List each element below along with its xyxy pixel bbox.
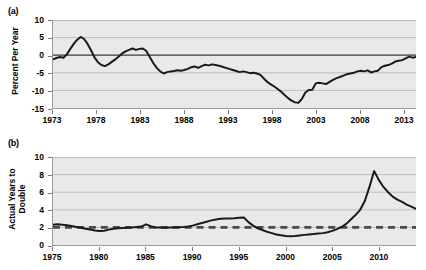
panel-a-xtickmark-1983 — [140, 110, 141, 114]
panel-b-xtick-2010: 2010 — [362, 253, 396, 262]
panel-b-label: (b) — [8, 138, 19, 148]
panel-b-ytick-2: 2 — [14, 223, 44, 232]
panel-a-xtick-1978: 1978 — [79, 116, 113, 125]
panel-a-xtickmark-1988 — [184, 110, 185, 114]
panel-a-ytick-5: 5 — [14, 33, 44, 42]
panel-a-ytick-minus5: -5 — [14, 69, 44, 78]
panel-b-ytick-8: 8 — [14, 171, 44, 180]
chart-panel-a: (a) Percent Per Year 10 5 0 -5 -10 -15 — [0, 0, 426, 136]
panel-b-xtickmark-1995 — [239, 247, 240, 251]
panel-a-ytick-10: 10 — [14, 16, 44, 25]
panel-b-xtickmark-1975 — [52, 247, 53, 251]
panel-b-xtick-1995: 1995 — [222, 253, 256, 262]
panel-b-xtick-1985: 1985 — [128, 253, 162, 262]
panel-b-ytick-0: 0 — [14, 241, 44, 250]
panel-a-xtick-2008: 2008 — [343, 116, 377, 125]
panel-a-label: (a) — [8, 6, 18, 16]
panel-b-plot-area — [52, 157, 416, 246]
panel-a-xtickmark-1993 — [228, 110, 229, 114]
chart-panel-b: (b) Actual Years to Double 10 8 6 4 2 0 — [0, 136, 426, 270]
panel-a-xtick-1998: 1998 — [255, 116, 289, 125]
panel-b-xtickmark-1985 — [145, 247, 146, 251]
panel-b-xtickmark-2000 — [286, 247, 287, 251]
panel-a-xtickmark-2008 — [360, 110, 361, 114]
panel-a-ytick-minus10: -10 — [14, 87, 44, 96]
panel-a-xtickmark-2013 — [404, 110, 405, 114]
panel-a-xtick-1993: 1993 — [211, 116, 245, 125]
panel-a-xtick-2003: 2003 — [299, 116, 333, 125]
figure-root: (a) Percent Per Year 10 5 0 -5 -10 -15 — [0, 0, 426, 270]
panel-a-xtick-1983: 1983 — [123, 116, 157, 125]
panel-a-series-line — [53, 37, 416, 103]
panel-b-xtick-1980: 1980 — [82, 253, 116, 262]
panel-b-ytick-4: 4 — [14, 206, 44, 215]
panel-a-svg — [53, 20, 416, 108]
panel-b-svg — [53, 157, 416, 245]
panel-b-gridlines — [53, 157, 416, 227]
panel-a-xtick-1973: 1973 — [35, 116, 69, 125]
panel-b-xtickmark-2010 — [379, 247, 380, 251]
panel-a-ytick-0: 0 — [14, 51, 44, 60]
panel-b-xtickmark-1990 — [192, 247, 193, 251]
panel-a-xtickmark-1973 — [52, 110, 53, 114]
panel-a-xtickmark-1998 — [272, 110, 273, 114]
panel-a-xtickmark-1978 — [96, 110, 97, 114]
panel-a-ytick-minus15: -15 — [14, 105, 44, 114]
panel-a-xtick-2013: 2013 — [387, 116, 421, 125]
panel-b-xtick-1990: 1990 — [175, 253, 209, 262]
panel-a-xtick-1988: 1988 — [167, 116, 201, 125]
panel-b-xtick-2000: 2000 — [269, 253, 303, 262]
panel-b-xtick-2005: 2005 — [315, 253, 349, 262]
panel-b-ytick-10: 10 — [14, 153, 44, 162]
panel-b-xtickmark-2005 — [332, 247, 333, 251]
panel-a-plot-area — [52, 20, 416, 109]
panel-b-xtick-1975: 1975 — [35, 253, 69, 262]
panel-a-xtickmark-2003 — [316, 110, 317, 114]
panel-b-xtickmark-1980 — [99, 247, 100, 251]
panel-b-ytick-6: 6 — [14, 188, 44, 197]
